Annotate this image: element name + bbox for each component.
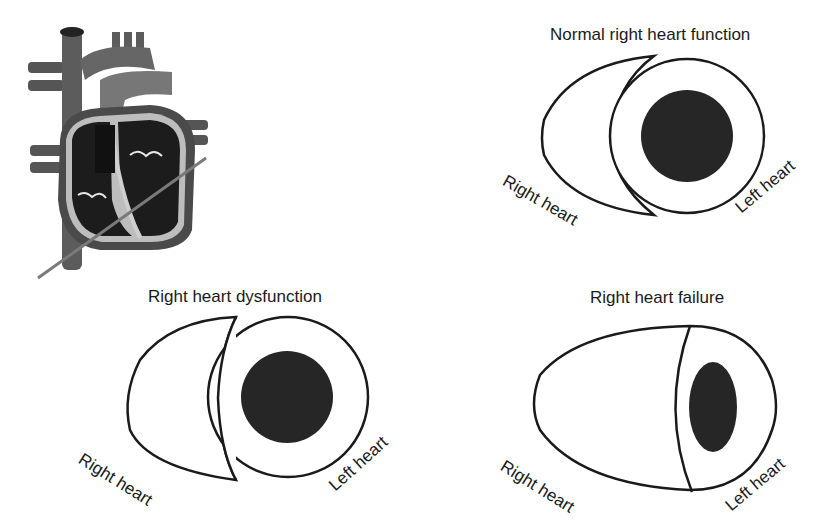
panel-normal: Normal right heart function Right heart … (500, 20, 830, 250)
panel-dysfunction: Right heart dysfunction Right heart Left… (70, 280, 390, 532)
panel-failure: Right heart failure Right heart Left hea… (490, 280, 830, 532)
dysfunction-cross-section-diagram (70, 280, 390, 532)
heart-anatomy-icon (0, 0, 210, 290)
heart-illustration (0, 0, 210, 290)
